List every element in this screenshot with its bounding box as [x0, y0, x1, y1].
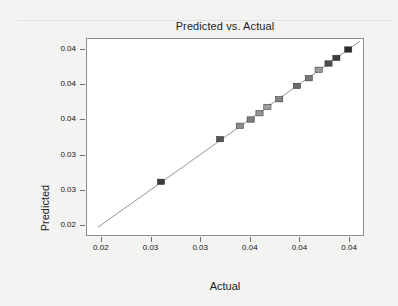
x-tick-label: 0.03: [134, 243, 168, 252]
data-point-marker[interactable]: [256, 111, 263, 116]
x-tick-label: 0.04: [282, 243, 316, 252]
data-point-marker[interactable]: [276, 97, 283, 102]
x-tick-mark: [299, 237, 300, 242]
data-point-marker[interactable]: [236, 123, 243, 128]
y-tick-label: 0.04: [42, 44, 76, 53]
data-point-marker[interactable]: [333, 55, 340, 60]
y-tick-mark: [80, 119, 85, 120]
data-point-marker[interactable]: [345, 47, 352, 52]
y-tick-label: 0.03: [42, 150, 76, 159]
data-point-marker[interactable]: [157, 179, 164, 184]
data-point-marker[interactable]: [216, 136, 223, 141]
scatter-plot-canvas: [87, 39, 363, 235]
y-axis-label: Predicted: [39, 163, 51, 253]
y-tick-mark: [80, 225, 85, 226]
y-tick-label: 0.04: [42, 79, 76, 88]
chart-title: Predicted vs. Actual: [86, 20, 364, 32]
x-tick-label: 0.04: [233, 243, 267, 252]
x-axis-label: Actual: [86, 280, 364, 292]
y-tick-mark: [80, 84, 85, 85]
data-point-marker[interactable]: [325, 61, 332, 66]
y-tick-mark: [80, 49, 85, 50]
y-axis-label-container: Predicted: [22, 92, 42, 182]
chart-page: Predicted vs. Actual Predicted 0.020.030…: [0, 0, 398, 306]
data-point-marker[interactable]: [305, 76, 312, 81]
y-tick-mark: [80, 190, 85, 191]
x-tick-label: 0.03: [183, 243, 217, 252]
y-tick-label: 0.02: [42, 220, 76, 229]
plot-inner: [87, 39, 363, 235]
x-tick-mark: [349, 237, 350, 242]
data-point-marker[interactable]: [315, 67, 322, 72]
y-tick-label: 0.04: [42, 114, 76, 123]
x-tick-mark: [200, 237, 201, 242]
data-point-marker[interactable]: [264, 104, 271, 109]
data-point-marker[interactable]: [293, 83, 300, 88]
y-tick-mark: [80, 155, 85, 156]
x-tick-label: 0.04: [332, 243, 366, 252]
y-tick-label: 0.03: [42, 185, 76, 194]
x-tick-mark: [250, 237, 251, 242]
data-point-marker[interactable]: [247, 117, 254, 122]
plot-area: [86, 38, 364, 236]
x-tick-label: 0.02: [84, 243, 118, 252]
x-tick-mark: [101, 237, 102, 242]
x-tick-mark: [151, 237, 152, 242]
